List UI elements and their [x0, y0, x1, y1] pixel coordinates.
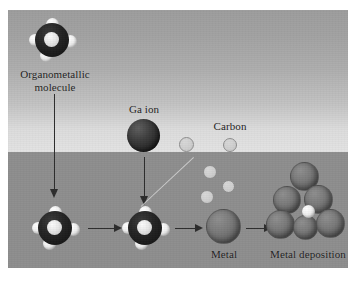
carbon-fragment-2 — [222, 180, 235, 193]
carbon-sphere-gas-2 — [223, 138, 237, 152]
organometallic-molecule-gas — [28, 18, 80, 66]
metal-deposition-cluster — [266, 162, 348, 248]
metal-atom-sphere — [206, 209, 241, 244]
organometallic-molecule-adsorbed — [31, 206, 83, 254]
molecule-center-atom — [47, 220, 62, 235]
deposit-sphere-bottom-mid — [293, 215, 318, 240]
deposit-sphere-bottom-right — [316, 209, 345, 238]
molecule-center-atom — [137, 220, 152, 235]
arrow-step-1-to-2 — [88, 223, 122, 233]
arrow-step-2-to-3 — [175, 223, 203, 233]
molecule-center-atom — [44, 32, 59, 47]
label-organometallic-molecule: Organometallic molecule — [10, 68, 100, 93]
label-metal-deposition: Metal deposition — [256, 248, 348, 261]
arrow-ga-ion-impact — [139, 157, 149, 205]
deposit-carbon-inclusion — [302, 205, 315, 218]
arrow-precursor-adsorption — [49, 94, 59, 198]
carbon-fragment-1 — [203, 165, 217, 179]
carbon-fragment-3 — [200, 190, 214, 204]
organometallic-molecule-dissociating — [121, 206, 173, 254]
figure-root: Organometallic molecule Ga ion Carbon — [0, 0, 357, 284]
label-metal: Metal — [196, 248, 252, 261]
diagram-panel: Organometallic molecule Ga ion Carbon — [8, 10, 348, 268]
deposit-sphere-bottom-left — [266, 210, 295, 239]
carbon-sphere-gas-1 — [179, 137, 194, 152]
label-carbon: Carbon — [194, 120, 266, 133]
ga-ion-sphere — [127, 119, 160, 152]
label-ga-ion: Ga ion — [108, 103, 180, 116]
